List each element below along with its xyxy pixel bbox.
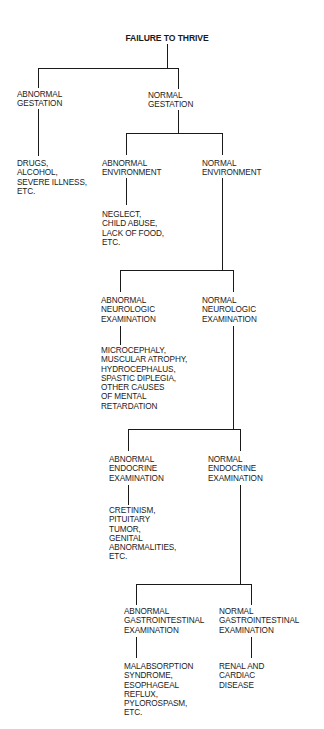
node-gestation-causes: DRUGS, ALCOHOL, SEVERE ILLNESS, ETC. [17, 159, 87, 196]
node-gastrointestinal-causes: MALABSORPTION SYNDROME, ESOPHAGEAL REFLU… [124, 662, 193, 718]
node-abnormal-endocrine: ABNORMAL ENDOCRINE EXAMINATION [109, 455, 164, 483]
connector [240, 429, 241, 451]
connector [38, 109, 39, 156]
node-final-causes: RENAL AND CARDIAC DISEASE [219, 662, 264, 690]
node-abnormal-gastrointestinal: ABNORMAL GASTROINTESTINAL EXAMINATION [124, 607, 204, 635]
node-normal-endocrine: NORMAL ENDOCRINE EXAMINATION [208, 455, 263, 483]
connector [251, 584, 252, 605]
connector [136, 637, 137, 658]
node-normal-neurologic: NORMAL NEUROLOGIC EXAMINATION [202, 296, 257, 324]
diagram-title: FAILURE TO THRIVE [0, 33, 324, 43]
connector [126, 133, 127, 155]
connector [126, 178, 127, 205]
connector [233, 326, 234, 429]
connector [222, 133, 223, 155]
connector [178, 68, 179, 89]
connector [38, 68, 179, 69]
node-abnormal-neurologic: ABNORMAL NEUROLOGIC EXAMINATION [101, 296, 156, 324]
connector [251, 637, 252, 658]
node-abnormal-environment: ABNORMAL ENVIRONMENT [102, 159, 161, 178]
connector [128, 485, 129, 505]
connector [178, 110, 179, 133]
node-normal-gestation: NORMAL GESTATION [148, 91, 193, 110]
node-normal-gastrointestinal: NORMAL GASTROINTESTINAL EXAMINATION [219, 607, 299, 635]
connector [233, 270, 234, 292]
connector [120, 270, 121, 292]
connector [167, 44, 168, 68]
connector [38, 68, 39, 88]
connector [126, 133, 223, 134]
connector [136, 584, 252, 585]
connector [128, 429, 241, 430]
connector [136, 584, 137, 605]
connector [222, 178, 223, 270]
node-abnormal-gestation: ABNORMAL GESTATION [17, 90, 62, 109]
node-endocrine-causes: CRETINISM, PITUITARY TUMOR, GENITAL ABNO… [109, 506, 176, 562]
connector [240, 485, 241, 584]
node-neurologic-causes: MICROCEPHALY, MUSCULAR ATROPHY, HYDROCEP… [101, 346, 187, 411]
connector [120, 270, 234, 271]
node-normal-environment: NORMAL ENVIRONMENT [202, 159, 261, 178]
connector [120, 326, 121, 345]
node-environment-causes: NEGLECT, CHILD ABUSE, LACK OF FOOD, ETC. [102, 210, 164, 247]
connector [128, 429, 129, 451]
